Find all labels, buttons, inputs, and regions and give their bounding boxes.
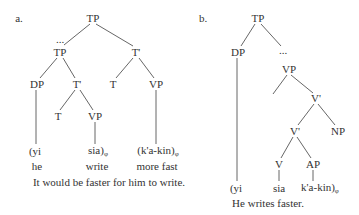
tree-b-node-dp: DP [231,47,245,58]
tree-b-label: b. [199,13,207,24]
tree-a-node-vp: VP [149,79,163,90]
tree-a-node-tp: TP [54,47,67,58]
tree-b-node-vbar-low: V' [290,126,300,137]
tree-a-ellipsis: ... [56,34,64,45]
tree-b-leaf-yi: (yi [230,183,242,194]
tree-a-caption: It would be faster for him to write. [33,177,185,188]
branch-a-tbar-to-t [116,58,133,78]
tree-a-leaf-kakin-phi: φ [175,150,179,158]
tree-b-node-vbar-top: V' [311,93,321,104]
tree-a-node-tp-root: TP [87,13,100,24]
tree-a-node-vp-low: VP [88,111,102,122]
branch-b-vbar-to-vbar [298,104,314,125]
tree-a-node-t: T [110,79,117,90]
tree-b-node-tp-root: TP [252,13,265,24]
tree-a-leaf-sia-text: sia) [88,144,104,156]
branch-a-tp-to-tp [64,24,90,45]
branch-b-vbar-to-ap [297,137,311,158]
tree-b-ellipsis: ... [279,45,287,56]
tree-a-node-tbar-mid: T' [73,79,82,90]
tree-b-node-ap: AP [306,159,320,170]
tree-b-node-np: NP [331,126,345,137]
tree-a-node-t-low: T [55,111,62,122]
tree-a-leaf-kakin-text: (k'a-kin) [137,144,174,156]
tree-a-leaf-sia: sia)φ [88,145,108,158]
tree-b-node-vp: VP [282,64,296,75]
tree-a-gloss-write: write [86,161,109,172]
branch-a-tbar-to-vp [139,58,154,78]
branch-a-tp-to-tbar [96,24,133,46]
syntax-tree-figure: a. TP ... TP T' DP T' T VP T VP (yi sia)… [0,0,359,215]
tree-a-leaf-yi: (yi [29,146,41,157]
branch-a-tp-to-dp [40,58,57,78]
tree-b-leaf-kakin-phi: φ [335,187,339,195]
tree-b-node-v: V [275,159,283,170]
tree-a-gloss-more-fast: more fast [136,161,177,172]
branch-a-tbar-mid-to-vp [80,90,93,110]
branch-b-vp-left [273,75,287,94]
branch-b-tp-to-dp [241,24,255,46]
branch-a-tbar-mid-to-t [60,90,75,110]
branch-a-tp-to-tbar-mid [63,58,75,78]
branch-b-vbar-to-v [281,137,293,158]
tree-a-label: a. [15,13,23,24]
tree-a-node-dp: DP [30,79,44,90]
tree-b-leaf-kakin: k'a-kin)φ [301,182,339,195]
tree-b-leaf-sia: sia [273,183,285,194]
branch-b-vbar-to-np [318,104,335,125]
tree-a-gloss-he: he [32,161,42,172]
tree-a-node-tbar: T' [132,47,141,58]
tree-a-leaf-sia-phi: φ [104,150,108,158]
tree-a-leaf-kakin: (k'a-kin)φ [137,145,178,158]
tree-b-caption: He writes faster. [232,198,304,209]
branch-b-vp-to-vbar [291,75,313,93]
tree-b-leaf-kakin-text: k'a-kin) [301,181,335,193]
